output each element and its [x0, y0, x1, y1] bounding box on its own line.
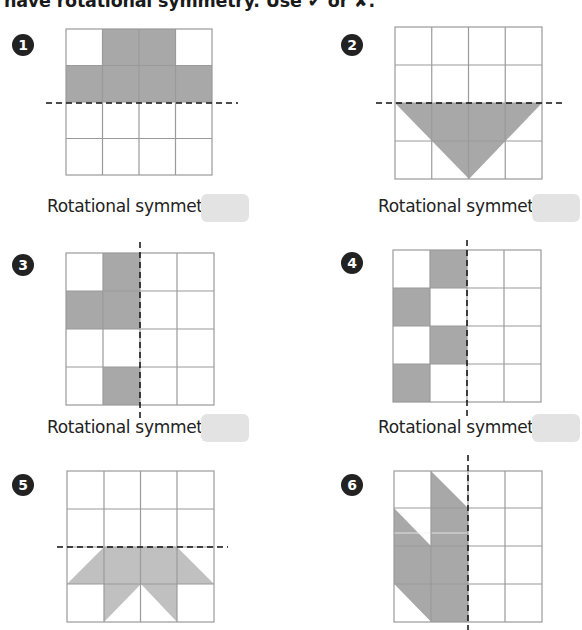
- grid-figure-5: [40, 455, 240, 630]
- answer-box-1[interactable]: [201, 194, 249, 222]
- rotational-symmetry-label: Rotational symmetry:: [47, 417, 223, 437]
- grid-figure-1: [40, 20, 240, 190]
- problem-number-badge: 3: [12, 254, 34, 276]
- answer-box-3[interactable]: [201, 414, 249, 442]
- grid-figure-3: [40, 240, 240, 420]
- problem-number-badge: 1: [12, 34, 34, 56]
- problem-number-badge: 2: [341, 34, 363, 56]
- instruction-text: have rotational symmetry. Use ✔ or ✘.: [4, 0, 375, 11]
- grid-figure-4: [368, 240, 582, 420]
- grid-figure-2: [370, 20, 582, 190]
- rotational-symmetry-label: Rotational symmetry:: [47, 196, 223, 216]
- problem-number-badge: 6: [341, 474, 363, 496]
- answer-box-4[interactable]: [532, 414, 580, 442]
- rotational-symmetry-label: Rotational symmetry:: [378, 417, 554, 437]
- problem-number-badge: 4: [341, 252, 363, 274]
- grid-figure-6: [368, 455, 582, 630]
- rotational-symmetry-label: Rotational symmetry:: [378, 196, 554, 216]
- answer-box-2[interactable]: [532, 194, 580, 222]
- problem-number-badge: 5: [12, 474, 34, 496]
